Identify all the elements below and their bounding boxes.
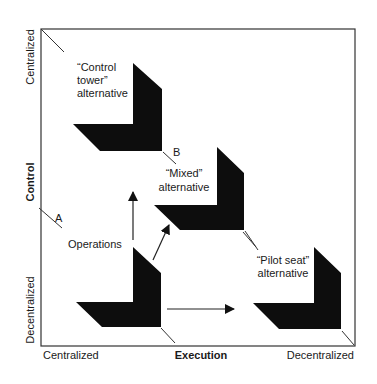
diagram-canvas: “Control tower” alternative “Mixed” alte… bbox=[0, 0, 377, 384]
marker-a: A bbox=[55, 212, 63, 224]
arrow-diagonal bbox=[153, 225, 169, 260]
operations-shape bbox=[76, 247, 161, 327]
control-tower-label-line3: alternative bbox=[77, 87, 128, 99]
x-axis-high-label: Decentralized bbox=[287, 349, 354, 361]
marker-b: B bbox=[173, 146, 180, 158]
mixed-label-line2: alternative bbox=[159, 181, 210, 193]
y-axis-title: Control bbox=[24, 162, 36, 201]
y-axis-low-label: Decentralized bbox=[24, 276, 36, 343]
y-axis-high-label: Centralized bbox=[24, 29, 36, 85]
control-tower-label-line1: “Control bbox=[77, 61, 116, 73]
x-axis-low-label: Centralized bbox=[43, 349, 99, 361]
pilot-seat-label-line1: “Pilot seat” bbox=[257, 254, 310, 266]
corner-tick-bottom-right bbox=[342, 331, 354, 345]
corner-tick-top-left bbox=[41, 29, 64, 52]
mixed-label-line1: “Mixed” bbox=[166, 167, 203, 179]
pilot-seat-label-line2: alternative bbox=[258, 267, 309, 279]
x-axis-title: Execution bbox=[175, 349, 228, 361]
control-tower-label-line2: tower” bbox=[77, 74, 108, 86]
operations-label: Operations bbox=[68, 238, 122, 250]
tick-mixed bbox=[245, 231, 258, 250]
tick-pilot-top bbox=[243, 232, 256, 247]
tick-operations bbox=[161, 328, 175, 343]
